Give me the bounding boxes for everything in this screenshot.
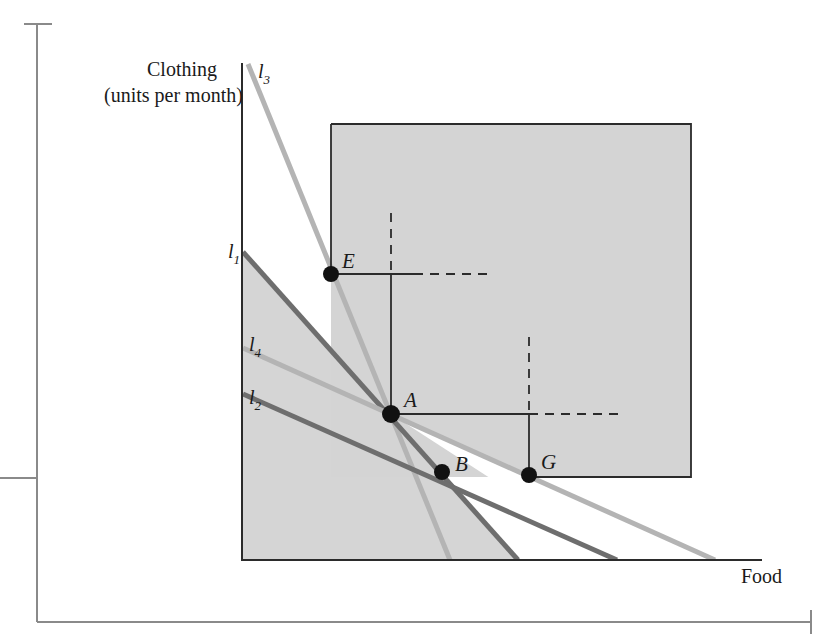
- budget-lines-figure: Clothing (units per month) Food l3 l1 l4…: [0, 0, 819, 640]
- line-label-l3: l3: [258, 60, 271, 87]
- point-label-G: G: [541, 450, 556, 474]
- y-axis-label-line2: (units per month): [104, 84, 243, 107]
- line-label-l1-sub: 1: [234, 252, 241, 267]
- x-axis-label: Food: [741, 565, 782, 587]
- point-G-marker: [521, 467, 537, 483]
- point-B-marker: [434, 464, 450, 480]
- point-A-marker: [382, 405, 400, 423]
- line-label-l1: l1: [228, 240, 240, 267]
- point-label-E: E: [341, 249, 355, 273]
- point-label-B: B: [455, 452, 468, 476]
- point-label-A: A: [402, 388, 417, 412]
- y-axis-label-line1: Clothing: [147, 58, 217, 81]
- line-label-l2-sub: 2: [255, 398, 262, 413]
- figure-canvas: Clothing (units per month) Food l3 l1 l4…: [0, 0, 819, 640]
- line-label-l4-sub: 4: [255, 345, 262, 360]
- point-E-marker: [323, 266, 339, 282]
- line-label-l3-sub: 3: [263, 72, 271, 87]
